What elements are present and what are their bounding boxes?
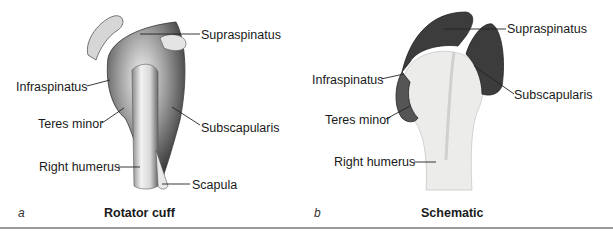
label-supraspinatus: Supraspinatus bbox=[507, 22, 587, 36]
label-scapula: Scapula bbox=[192, 178, 237, 192]
label-teres-minor: Teres minor bbox=[325, 113, 390, 127]
caption-rotator-cuff: Rotator cuff bbox=[104, 206, 175, 220]
label-subscapularis: Subscapularis bbox=[201, 121, 280, 135]
label-right-humerus: Right humerus bbox=[334, 155, 415, 169]
label-infraspinatus: Infraspinatus bbox=[16, 80, 88, 94]
bottom-divider bbox=[0, 227, 613, 229]
panel-letter-a: a bbox=[18, 206, 25, 220]
label-right-humerus: Right humerus bbox=[39, 160, 120, 174]
panel-schematic: Supraspinatus Infraspinatus Teres minor … bbox=[306, 0, 613, 238]
panel-rotator-cuff: Supraspinatus Infraspinatus Teres minor … bbox=[0, 0, 306, 238]
caption-schematic: Schematic bbox=[421, 206, 484, 220]
label-subscapularis: Subscapularis bbox=[514, 88, 593, 102]
label-teres-minor: Teres minor bbox=[38, 117, 103, 131]
label-supraspinatus: Supraspinatus bbox=[201, 28, 281, 42]
label-infraspinatus: Infraspinatus bbox=[312, 73, 384, 87]
panel-letter-b: b bbox=[314, 206, 321, 220]
